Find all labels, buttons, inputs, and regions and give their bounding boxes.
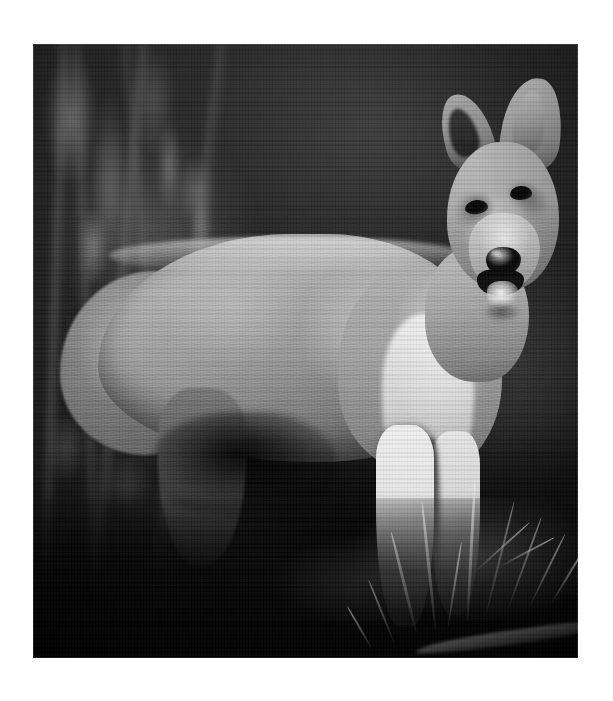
grass-blade xyxy=(367,580,394,643)
grass-blade xyxy=(420,502,436,631)
grass-blade xyxy=(507,516,543,609)
photograph-plate xyxy=(33,44,578,658)
grass-blade xyxy=(389,532,417,634)
photo-page xyxy=(0,0,613,701)
grass-blade xyxy=(346,606,372,649)
grass-blade xyxy=(466,480,476,621)
grass-blade xyxy=(529,534,566,607)
grass-blade xyxy=(447,542,463,627)
foreground-grass xyxy=(33,44,578,658)
